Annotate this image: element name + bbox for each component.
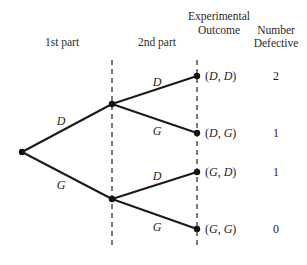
outcome-DG: (D, G)	[205, 126, 236, 140]
outcome-GD-first: G	[209, 165, 218, 179]
outcome-GG-second: G	[224, 222, 233, 236]
header-stage2: 2nd part	[138, 36, 177, 49]
outcome-GG: (G, G)	[205, 222, 236, 236]
outcome-DD: (D, D)	[205, 69, 236, 83]
defective-count-DD: 2	[273, 69, 279, 83]
tree-diagram: 1st part 2nd part Experimental Outcome N…	[0, 0, 307, 265]
branch-label-stage1-D: D	[56, 114, 66, 128]
node-outcome-DD	[194, 73, 200, 79]
outcome-DG-second: G	[224, 126, 233, 140]
defective-count-DG: 1	[273, 126, 279, 140]
header-stage1: 1st part	[45, 36, 80, 49]
node-stage1-D	[109, 101, 115, 107]
branch-label-stage2-GD: D	[152, 169, 162, 183]
branch-label-stage2-DG: G	[153, 124, 162, 138]
header-outcome-line2: Outcome	[198, 24, 240, 36]
header-outcome-line1: Experimental	[188, 10, 250, 23]
node-outcome-GD	[194, 169, 200, 175]
branch-label-stage2-DD: D	[152, 75, 162, 89]
header-count-line2: Defective	[254, 37, 299, 49]
outcome-DG-first: D	[208, 126, 218, 140]
node-outcome-DG	[194, 130, 200, 136]
edge-root-to-G	[22, 152, 112, 199]
outcome-GD: (G, D)	[205, 165, 236, 179]
branch-label-stage2-GG: G	[153, 220, 162, 234]
node-outcome-GG	[194, 226, 200, 232]
node-stage1-G	[109, 196, 115, 202]
outcome-DD-first: D	[208, 69, 218, 83]
header-count-line1: Number	[257, 24, 295, 36]
branch-label-stage1-G: G	[57, 178, 66, 192]
node-root	[19, 149, 25, 155]
edge-root-to-D	[22, 104, 112, 152]
outcome-GG-first: G	[209, 222, 218, 236]
defective-count-GG: 0	[273, 222, 279, 236]
outcome-GD-second: D	[223, 165, 233, 179]
defective-count-GD: 1	[273, 165, 279, 179]
outcome-DD-second: D	[223, 69, 233, 83]
